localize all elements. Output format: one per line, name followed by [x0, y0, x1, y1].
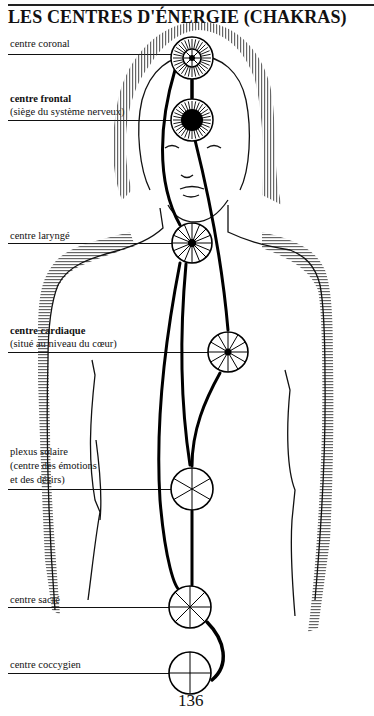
chakra-coronal-icon	[171, 37, 213, 79]
chakra-solaire-icon	[171, 468, 213, 510]
chakra-cardiaque-icon	[208, 332, 248, 372]
chakra-frontal-icon	[171, 99, 213, 141]
chakra-larynge-icon	[172, 223, 212, 263]
chakra-body-figure	[0, 0, 374, 716]
chakra-sacre-icon	[169, 586, 211, 628]
page-number: 136	[178, 691, 204, 711]
chakra-coccygien-icon	[169, 652, 211, 694]
